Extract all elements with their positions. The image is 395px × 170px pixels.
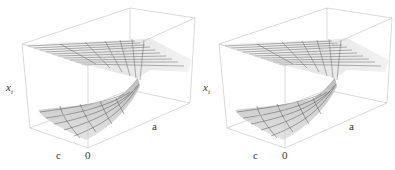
plot-panel-right: xi c 0 a: [197, 0, 394, 170]
plot-panel-left: xi c 0 a: [0, 0, 197, 170]
axis-label-origin: 0: [85, 150, 91, 161]
axis-label-horizontal: a: [349, 121, 354, 132]
axis-label-depth: c: [56, 150, 61, 161]
surface-plot-right: [197, 0, 394, 170]
surface-lower-sheet: [235, 78, 337, 140]
surface-upper-sheet: [22, 38, 192, 78]
surface-plot-left: [0, 0, 197, 170]
surface-lower-sheet: [38, 78, 140, 140]
axis-label-origin: 0: [282, 150, 288, 161]
axis-label-vertical: xi: [6, 82, 13, 96]
bounding-box-front: [219, 8, 392, 148]
surface-upper-sheet: [219, 38, 389, 78]
axis-label-vertical: xi: [203, 82, 210, 96]
axis-label-horizontal: a: [152, 121, 157, 132]
axis-label-depth: c: [253, 150, 258, 161]
bounding-box-front: [22, 8, 195, 148]
figure: xi c 0 a: [0, 0, 395, 170]
